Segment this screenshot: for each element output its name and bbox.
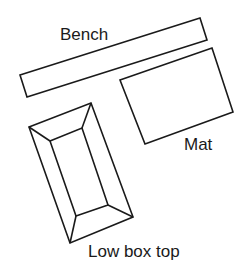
box-bevel-edge <box>70 216 76 243</box>
mat-label: Mat <box>184 135 213 154</box>
bench-shape <box>20 18 207 97</box>
equipment-diagram: Bench Mat Low box top <box>0 0 249 275</box>
low-box-top-shape <box>29 103 133 243</box>
low-box-top-label: Low box top <box>88 242 180 261</box>
box-inner-outline <box>50 128 108 216</box>
bench-label: Bench <box>60 25 108 44</box>
box-outer-outline <box>29 103 133 243</box>
